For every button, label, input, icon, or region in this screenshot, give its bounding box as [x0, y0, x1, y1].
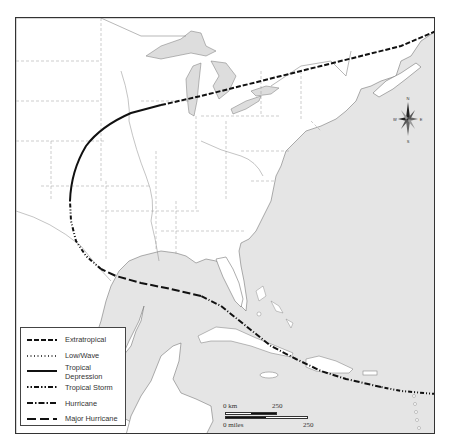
legend-item-hurricane: Hurricane — [27, 395, 125, 411]
land-jamaica — [260, 372, 278, 378]
legend-item-extratropical: Extratropical — [27, 332, 125, 348]
legend-label: Hurricane — [65, 399, 97, 408]
scale-km-start: 0 km — [223, 402, 237, 410]
track-tropical-storm-east — [381, 387, 435, 394]
land-bahamas — [256, 286, 293, 328]
scale-miles-start: 0 miles — [223, 421, 243, 429]
legend-label: Tropical Storm — [65, 383, 113, 392]
map-legend: Extratropical Low/Wave Tropical Depressi… — [20, 327, 126, 426]
scale-miles-end: 250 — [303, 421, 314, 429]
tropical-storm-line-icon — [27, 384, 57, 390]
land-puerto-rico — [363, 371, 377, 375]
legend-item-tropical-depression: Tropical Depression — [27, 364, 125, 380]
tropical-depression-line-icon — [27, 368, 57, 374]
land-lesser-antilles — [413, 395, 421, 430]
land-central-america — [126, 343, 213, 434]
track-hurricane — [201, 296, 381, 387]
compass-north-label: N — [407, 96, 410, 101]
low-wave-line-icon — [27, 353, 57, 359]
legend-label: Extratropical — [65, 335, 106, 344]
legend-label: Tropical Depression — [65, 363, 125, 381]
compass-south-label: S — [407, 139, 410, 144]
compass-east-label: E — [420, 117, 423, 122]
major-hurricane-line-icon — [27, 416, 57, 422]
scale-bar: 0 km 250 0 miles 250 — [223, 402, 333, 432]
legend-item-tropical-storm: Tropical Storm — [27, 379, 125, 395]
land-hispaniola — [306, 356, 353, 373]
compass-rose-icon: N S W E — [393, 94, 423, 144]
land-cuba — [198, 327, 293, 357]
scale-km-bar — [225, 412, 277, 415]
legend-label: Low/Wave — [65, 351, 99, 360]
legend-item-low-wave: Low/Wave — [27, 348, 125, 364]
extratropical-line-icon — [27, 337, 57, 343]
legend-label: Major Hurricane — [65, 414, 118, 423]
scale-km-end: 250 — [272, 402, 283, 410]
hurricane-line-icon — [27, 400, 57, 406]
scale-miles-bar — [225, 416, 308, 419]
legend-item-major-hurricane: Major Hurricane — [27, 411, 125, 427]
compass-west-label: W — [393, 117, 397, 122]
